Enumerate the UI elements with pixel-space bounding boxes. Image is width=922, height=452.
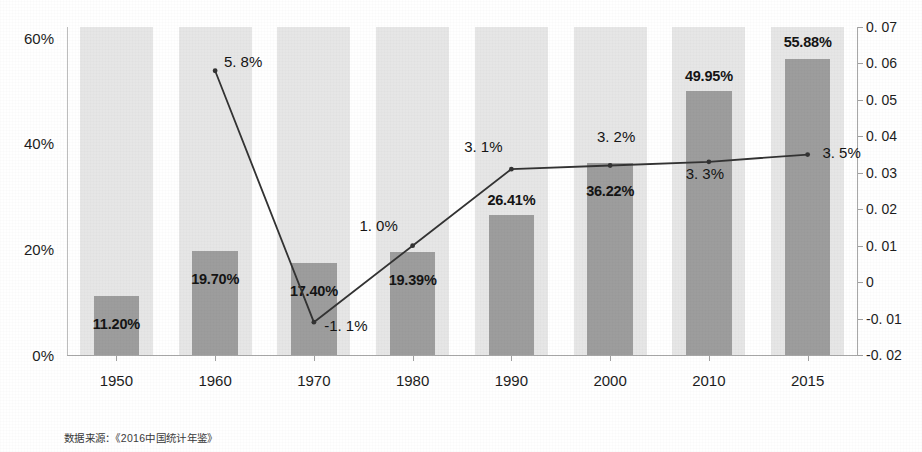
y-tick-label-left: 40% — [24, 135, 54, 152]
source-footnote: 数据来源：《2016中国统计年鉴》 — [64, 430, 217, 445]
y-tick-mark-right — [858, 63, 863, 64]
y-tick-mark-right — [858, 173, 863, 174]
x-tick-label: 1980 — [396, 372, 429, 389]
y-axis-left: 0%20%40%60% — [0, 0, 58, 452]
y-tick-mark-right — [858, 282, 863, 283]
x-tick-mark — [709, 356, 710, 361]
x-tick-label: 1960 — [198, 372, 231, 389]
x-axis-line — [67, 355, 859, 356]
x-tick-label: 2015 — [791, 372, 824, 389]
line-value-label: 3. 2% — [597, 128, 635, 145]
line-value-label: 1. 0% — [359, 217, 397, 234]
line-value-label: 5. 8% — [224, 53, 262, 70]
bar-value-label: 49.95% — [685, 68, 733, 84]
y-tick-label-right: 0. 02 — [866, 201, 897, 217]
bar[interactable] — [291, 263, 336, 355]
x-tick-mark — [808, 356, 809, 361]
bar-value-label: 55.88% — [784, 34, 832, 50]
y-tick-label-right: 0. 01 — [866, 238, 897, 254]
bar[interactable] — [489, 215, 534, 355]
x-tick-label: 2010 — [692, 372, 725, 389]
y-tick-mark-right — [858, 355, 863, 356]
y-tick-label-right: 0. 06 — [866, 55, 897, 71]
chart-figure: 0%20%40%60% 0. 070. 060. 050. 040. 030. … — [0, 0, 922, 452]
x-tick-mark — [116, 356, 117, 361]
x-tick-mark — [610, 356, 611, 361]
bar-value-label: 19.39% — [389, 272, 437, 288]
y-tick-label-right: 0. 04 — [866, 128, 897, 144]
bar[interactable] — [192, 251, 237, 355]
y-tick-mark-right — [858, 209, 863, 210]
x-tick-label: 1950 — [100, 372, 133, 389]
bar-value-label: 26.41% — [487, 192, 535, 208]
line-value-label: 3. 1% — [464, 138, 502, 155]
y-tick-label-right: 0. 03 — [866, 165, 897, 181]
x-tick-mark — [413, 356, 414, 361]
bar[interactable] — [686, 91, 731, 355]
y-tick-label-right: 0. 05 — [866, 92, 897, 108]
y-tick-label-left: 60% — [24, 29, 54, 46]
x-tick-label: 1990 — [495, 372, 528, 389]
y-tick-label-left: 0% — [32, 347, 54, 364]
bar-value-label: 19.70% — [191, 271, 239, 287]
line-value-label: -1. 1% — [324, 317, 367, 334]
y-tick-label-right: -0. 01 — [866, 311, 902, 327]
y-tick-mark-right — [858, 27, 863, 28]
y-tick-mark-right — [858, 100, 863, 101]
y-tick-label-right: 0. 07 — [866, 19, 897, 35]
x-tick-mark — [215, 356, 216, 361]
y-tick-label-left: 20% — [24, 241, 54, 258]
x-tick-mark — [511, 356, 512, 361]
bar-value-label: 11.20% — [93, 316, 140, 332]
x-tick-label: 1970 — [297, 372, 330, 389]
y-axis-right-line — [857, 27, 858, 356]
bar-value-label: 17.40% — [290, 283, 338, 299]
y-axis-right: 0. 070. 060. 050. 040. 030. 020. 010-0. … — [866, 0, 922, 452]
line-value-label: 3. 5% — [822, 144, 860, 161]
x-tick-label: 2000 — [593, 372, 626, 389]
bar-value-label: 36.22% — [586, 183, 634, 199]
y-tick-label-right: 0 — [866, 274, 874, 290]
y-tick-label-right: -0. 02 — [866, 347, 902, 363]
bar[interactable] — [390, 252, 435, 355]
y-tick-mark-right — [858, 136, 863, 137]
bar[interactable] — [785, 59, 830, 355]
bar-series-layer — [67, 27, 857, 355]
plot-area — [67, 27, 857, 355]
y-tick-mark-right — [858, 319, 863, 320]
y-axis-left-line — [67, 27, 68, 356]
line-value-label: 3. 3% — [686, 165, 724, 182]
x-tick-mark — [314, 356, 315, 361]
y-tick-mark-right — [858, 246, 863, 247]
